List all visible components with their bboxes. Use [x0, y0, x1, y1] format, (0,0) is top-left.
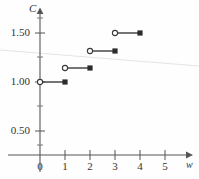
step-3-closed-endpoint [112, 48, 117, 53]
y-axis-arrow-icon [37, 8, 44, 15]
scan-artifact-line [0, 50, 199, 66]
x-tick-label-4: 4 [133, 161, 147, 172]
x-tick-label-0: 0 [33, 161, 47, 172]
step-4-closed-endpoint [137, 30, 142, 35]
x-axis-arrow-icon [186, 152, 193, 159]
x-tick-label-3: 3 [108, 161, 122, 172]
y-tick-label-050: 0.50 [2, 125, 30, 136]
step-2-closed-endpoint [87, 65, 92, 70]
step-4-open-endpoint [112, 30, 117, 35]
x-tick-label-1: 1 [58, 161, 72, 172]
chart-figure: 1.50 1.00 0.50 0 1 2 3 4 5 C w [0, 0, 199, 179]
step-2-open-endpoint [62, 65, 67, 70]
y-tick-label-150: 1.50 [2, 27, 30, 38]
x-tick-label-5: 5 [158, 161, 172, 172]
y-tick-label-100: 1.00 [2, 76, 30, 87]
x-axis-label: w [186, 160, 193, 170]
step-3-open-endpoint [87, 48, 92, 53]
x-tick-label-2: 2 [83, 161, 97, 172]
step-1-open-endpoint [37, 79, 42, 84]
y-axis-label: C [29, 3, 36, 14]
step-1-closed-endpoint [62, 79, 67, 84]
